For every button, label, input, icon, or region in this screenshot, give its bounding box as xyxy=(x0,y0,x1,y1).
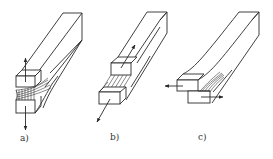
upper-block-c xyxy=(177,80,198,91)
panel-a-diagram xyxy=(16,13,82,130)
fracture-modes-figure: a) b) c) xyxy=(0,0,273,159)
lower-block-b xyxy=(99,92,120,104)
panel-c-diagram xyxy=(165,12,259,103)
panel-label-b: b) xyxy=(110,133,119,142)
panel-b-diagram xyxy=(97,12,167,122)
upper-block-b xyxy=(111,63,131,75)
panel-label-c: c) xyxy=(198,133,207,142)
panel-label-a: a) xyxy=(20,134,29,143)
